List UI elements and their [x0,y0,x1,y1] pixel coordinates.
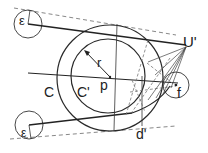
belt-bottom [29,113,132,125]
label-f: f [177,86,181,100]
label-r: r [97,56,101,69]
label-U-prime: U' [183,34,197,49]
label-eps-top: ε [19,14,25,27]
label-p: p [100,78,108,92]
diagram-canvas: ε ε r p C C' U' f d' [0,0,208,153]
eps-bottom-radius [29,125,31,139]
label-C-prime: C' [77,85,90,99]
label-d-prime: d' [136,127,146,141]
dashed-top-tangent [14,8,176,35]
label-C: C [44,85,54,99]
eps-top-radius [28,10,30,24]
point-p [109,76,111,78]
belt-top [28,24,186,45]
circle-C-prime [71,39,145,113]
label-eps-bottom: ε [21,127,26,139]
